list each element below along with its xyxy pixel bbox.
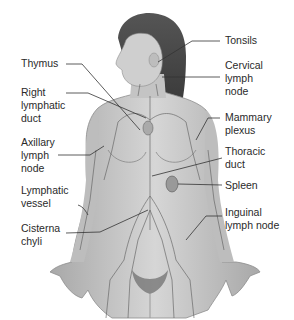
- label-cervical-lymph-node: Cervical lymph node: [225, 59, 263, 98]
- label-cisterna-chyli: Cisterna chyli: [21, 222, 60, 248]
- label-thymus: Thymus: [21, 57, 58, 70]
- ear: [149, 53, 159, 67]
- spleen-organ: [166, 176, 178, 192]
- thymus-organ: [143, 121, 153, 135]
- label-tonsils: Tonsils: [225, 34, 257, 47]
- label-spleen: Spleen: [225, 179, 258, 192]
- label-axillary-lymph-node: Axillary lymph node: [21, 136, 55, 175]
- lymphatic-system-diagram: Thymus Right lymphatic duct Axillary lym…: [0, 0, 294, 320]
- label-thoracic-duct: Thoracic duct: [225, 145, 265, 171]
- label-lymphatic-vessel: Lymphatic vessel: [21, 184, 68, 210]
- label-inguinal-lymph-node: Inguinal lymph node: [225, 206, 279, 232]
- label-right-lymphatic-duct: Right lymphatic duct: [21, 86, 65, 125]
- label-mammary-plexus: Mammary plexus: [225, 111, 272, 137]
